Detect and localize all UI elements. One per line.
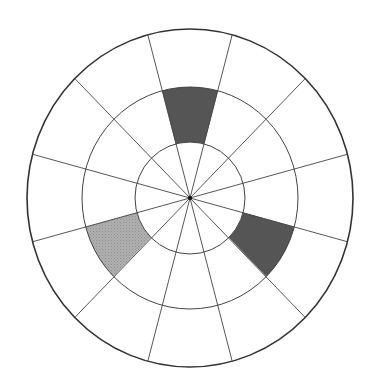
spoke-line [33, 154, 190, 198]
polar-grid-svg [0, 0, 370, 382]
shaded-sector-lower-right [229, 212, 294, 276]
shaded-sectors [86, 87, 295, 276]
spoke-line [190, 154, 347, 198]
polar-grid-diagram [0, 0, 370, 382]
shaded-sector-top [162, 87, 218, 144]
spoke-line [190, 198, 232, 361]
shaded-sector-lower-left [86, 212, 151, 276]
center-point [188, 196, 192, 200]
spoke-line [148, 198, 190, 361]
